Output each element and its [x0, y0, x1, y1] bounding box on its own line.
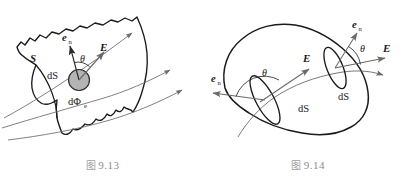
figure-drawing-9-14: e n θ E dS e n θ E dS: [205, 0, 411, 150]
label-angle-theta-entry: θ: [262, 67, 267, 78]
label-en-exit-base: e: [352, 19, 357, 30]
figure-panel-9-14: e n θ E dS e n θ E dS 图9.14: [205, 0, 411, 178]
caption-cjk-9-13: 图: [86, 160, 97, 171]
caption-number-9-13: 9.13: [98, 159, 119, 171]
figure-panel-9-13: S dS e n θ E dΦ e 图9.13: [0, 0, 205, 178]
label-en-exit-subscript: n: [359, 25, 363, 32]
label-flux-base: dΦ: [68, 96, 81, 107]
label-angle-theta-exit: θ: [360, 43, 365, 54]
label-surface-S: S: [30, 52, 36, 64]
label-flux-subscript: e: [84, 102, 87, 109]
label-en-entry-base: e: [211, 73, 216, 84]
label-area-element-dS: dS: [47, 70, 58, 81]
label-normal-vector-en-exit: e n: [352, 19, 363, 32]
label-area-element-dS-exit: dS: [338, 91, 349, 102]
label-en-base: e: [62, 32, 67, 43]
caption-9-13: 图9.13: [0, 157, 205, 172]
label-area-element-dS-entry: dS: [298, 103, 309, 114]
label-field-vector-E-exit: E: [382, 42, 390, 54]
label-en-entry-subscript: n: [218, 79, 222, 86]
label-field-vector-E-entry: E: [302, 52, 310, 64]
figure-sheet: S dS e n θ E dΦ e 图9.13: [0, 0, 411, 178]
caption-cjk-9-14: 图: [291, 160, 302, 171]
caption-number-9-14: 9.14: [304, 159, 325, 171]
label-field-vector-E: E: [99, 41, 107, 53]
caption-9-14: 图9.14: [205, 157, 411, 172]
label-angle-theta: θ: [80, 53, 85, 64]
label-normal-vector-en-entry: e n: [211, 73, 222, 86]
figure-drawing-9-13: S dS e n θ E dΦ e: [0, 0, 205, 150]
